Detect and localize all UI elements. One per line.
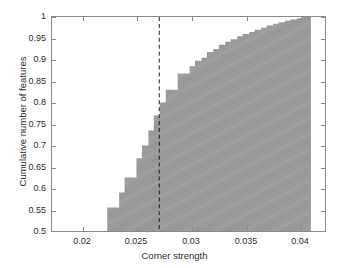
y-tick-mark: [52, 189, 56, 190]
y-tick-mark: [52, 232, 56, 233]
y-tick-mark-right: [321, 17, 325, 18]
chart-canvas: [52, 17, 325, 231]
x-tick-mark: [301, 227, 302, 231]
x-tick-mark-top: [247, 17, 248, 21]
x-tick-label: 0.03: [182, 236, 200, 246]
y-tick-label: 0.55: [28, 205, 46, 215]
y-tick-label: 0.6: [33, 183, 46, 193]
y-tick-mark: [52, 17, 56, 18]
x-tick-mark: [137, 227, 138, 231]
y-tick-label: 0.95: [28, 33, 46, 43]
y-tick-mark: [52, 168, 56, 169]
y-tick-label: 1: [41, 11, 46, 21]
y-tick-label: 0.5: [33, 226, 46, 236]
y-tick-mark-right: [321, 211, 325, 212]
y-tick-mark-right: [321, 39, 325, 40]
cumulative-step-area: [101, 17, 311, 231]
y-tick-mark: [52, 82, 56, 83]
y-tick-label: 0.8: [33, 97, 46, 107]
y-tick-mark: [52, 39, 56, 40]
y-tick-label: 0.9: [33, 54, 46, 64]
y-tick-label: 0.75: [28, 119, 46, 129]
x-tick-label: 0.025: [125, 236, 148, 246]
x-tick-label: 0.02: [73, 236, 91, 246]
y-tick-mark: [52, 125, 56, 126]
y-tick-mark-right: [321, 82, 325, 83]
y-axis-title: Cumulative number of features: [17, 42, 28, 202]
y-tick-mark-right: [321, 232, 325, 233]
x-tick-mark: [192, 227, 193, 231]
y-tick-mark-right: [321, 168, 325, 169]
y-tick-mark-right: [321, 146, 325, 147]
x-axis-title: Corner strength: [0, 250, 349, 261]
chart-figure: 1 0.95 0.9 0.85 0.8 0.75 0.7 0.65 0.6 0.…: [0, 0, 349, 268]
y-tick-label: 0.85: [28, 76, 46, 86]
y-tick-mark: [52, 211, 56, 212]
x-tick-mark-top: [137, 17, 138, 21]
y-tick-mark: [52, 103, 56, 104]
x-tick-mark-top: [192, 17, 193, 21]
x-tick-mark-top: [301, 17, 302, 21]
y-tick-mark-right: [321, 103, 325, 104]
x-tick-mark: [247, 227, 248, 231]
x-tick-mark-top: [83, 17, 84, 21]
plot-area: [51, 16, 326, 232]
y-tick-mark: [52, 60, 56, 61]
y-tick-mark-right: [321, 125, 325, 126]
x-tick-label: 0.035: [235, 236, 258, 246]
y-tick-label: 0.65: [28, 162, 46, 172]
x-tick-mark: [83, 227, 84, 231]
y-tick-mark: [52, 146, 56, 147]
y-tick-mark-right: [321, 189, 325, 190]
y-tick-mark-right: [321, 60, 325, 61]
x-tick-label: 0.04: [291, 236, 309, 246]
y-tick-label: 0.7: [33, 140, 46, 150]
